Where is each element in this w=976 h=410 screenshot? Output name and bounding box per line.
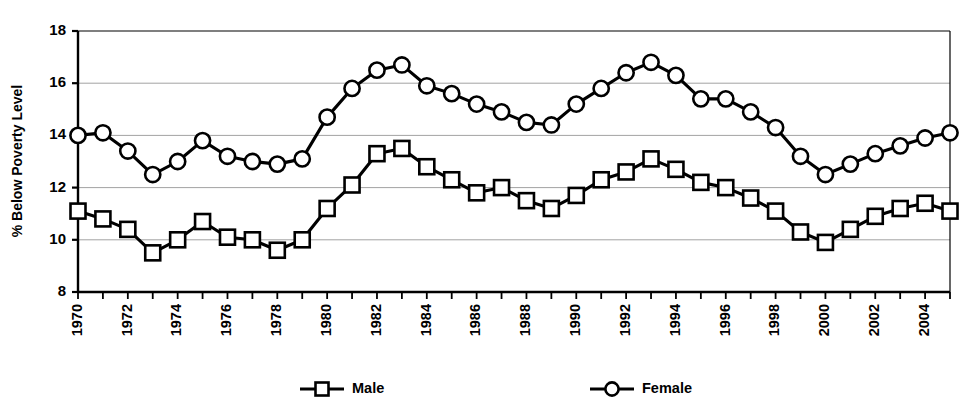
- datapoint-female-1997: [743, 104, 758, 119]
- datapoint-male-1971: [95, 211, 110, 226]
- datapoint-male-1996: [718, 180, 733, 195]
- datapoint-male-2000: [818, 235, 833, 250]
- x-tick-label-2002: 2002: [866, 304, 882, 336]
- datapoint-male-1985: [444, 172, 459, 187]
- x-tick-label-1996: 1996: [717, 304, 733, 336]
- x-tick-label-1974: 1974: [168, 304, 184, 336]
- x-tick-label-1982: 1982: [368, 304, 384, 336]
- y-tick-label-12: 12: [49, 178, 66, 195]
- datapoint-female-1992: [619, 65, 634, 80]
- datapoint-female-1996: [718, 91, 733, 106]
- datapoint-male-1988: [519, 193, 534, 208]
- datapoint-female-2003: [893, 138, 908, 153]
- x-tick-label-1970: 1970: [69, 304, 85, 336]
- datapoint-female-1973: [145, 167, 160, 182]
- datapoint-male-2005: [943, 204, 958, 219]
- chart-canvas: 81012141618 1970197219741976197819801982…: [0, 0, 976, 410]
- datapoint-female-1982: [369, 63, 384, 78]
- y-tick-label-16: 16: [49, 73, 66, 90]
- datapoint-male-1978: [270, 243, 285, 258]
- datapoint-male-1970: [71, 204, 86, 219]
- y-tick-label-18: 18: [49, 21, 66, 38]
- datapoint-female-1977: [245, 154, 260, 169]
- datapoint-female-2004: [917, 130, 932, 145]
- datapoint-female-1970: [70, 128, 85, 143]
- datapoint-female-1983: [394, 57, 409, 72]
- x-tick-label-1988: 1988: [517, 304, 533, 336]
- datapoint-female-1971: [95, 125, 110, 140]
- datapoint-male-2001: [843, 222, 858, 237]
- datapoint-female-1995: [693, 91, 708, 106]
- x-tick-label-1976: 1976: [218, 304, 234, 336]
- datapoint-male-1995: [693, 175, 708, 190]
- datapoint-male-1982: [369, 146, 384, 161]
- datapoint-male-1992: [619, 164, 634, 179]
- datapoint-male-1981: [345, 177, 360, 192]
- x-tick-label-1986: 1986: [467, 304, 483, 336]
- datapoint-male-1977: [245, 232, 260, 247]
- x-tick-label-1998: 1998: [766, 304, 782, 336]
- datapoint-female-1987: [494, 104, 509, 119]
- plot-frame: [78, 31, 950, 292]
- datapoint-female-1989: [544, 117, 559, 132]
- datapoint-male-1972: [120, 222, 135, 237]
- chart-legend: MaleFemale: [300, 380, 692, 396]
- x-tick-label-1978: 1978: [268, 304, 284, 336]
- datapoint-male-2004: [918, 196, 933, 211]
- series-male: [71, 141, 958, 260]
- series-female: [70, 55, 957, 182]
- datapoint-male-1993: [644, 151, 659, 166]
- datapoint-male-1994: [668, 162, 683, 177]
- x-tick-label-1972: 1972: [119, 304, 135, 336]
- legend-marker-female: [605, 382, 618, 395]
- datapoint-male-1980: [320, 201, 335, 216]
- datapoint-female-1978: [270, 157, 285, 172]
- datapoint-female-2005: [942, 125, 957, 140]
- x-axis-tick-labels: 1970197219741976197819801982198419861988…: [69, 304, 932, 336]
- datapoint-male-1984: [419, 159, 434, 174]
- poverty-level-line-chart: 81012141618 1970197219741976197819801982…: [0, 0, 976, 410]
- x-tick-label-1980: 1980: [318, 304, 334, 336]
- datapoint-female-1979: [295, 151, 310, 166]
- datapoint-female-2001: [843, 157, 858, 172]
- datapoint-female-1980: [320, 110, 335, 125]
- datapoint-female-1984: [419, 78, 434, 93]
- x-tick-label-1994: 1994: [667, 304, 683, 336]
- datapoint-female-1998: [768, 120, 783, 135]
- datapoint-female-2000: [818, 167, 833, 182]
- y-axis-tick-labels: 81012141618: [49, 21, 66, 299]
- datapoint-female-1991: [594, 81, 609, 96]
- legend-marker-male: [316, 383, 329, 396]
- legend-label-male: Male: [352, 380, 384, 396]
- x-tick-label-1992: 1992: [617, 304, 633, 336]
- y-axis-title: % Below Poverty Level: [9, 85, 25, 238]
- datapoint-female-1994: [668, 68, 683, 83]
- datapoint-male-1986: [469, 185, 484, 200]
- datapoint-male-1979: [295, 232, 310, 247]
- x-tick-label-1984: 1984: [418, 304, 434, 336]
- y-tick-label-14: 14: [49, 125, 66, 142]
- datapoint-male-1973: [145, 245, 160, 260]
- x-tick-label-1990: 1990: [567, 304, 583, 336]
- datapoint-male-2003: [893, 201, 908, 216]
- y-tick-label-8: 8: [58, 282, 66, 299]
- datapoint-male-1991: [594, 172, 609, 187]
- datapoint-male-1997: [743, 191, 758, 206]
- datapoint-male-1999: [793, 224, 808, 239]
- datapoint-female-1988: [519, 115, 534, 130]
- datapoint-male-1976: [220, 230, 235, 245]
- datapoint-female-1976: [220, 149, 235, 164]
- datapoint-female-1986: [469, 96, 484, 111]
- y-tick-label-10: 10: [49, 230, 66, 247]
- datapoint-female-1975: [195, 133, 210, 148]
- datapoint-male-1974: [170, 232, 185, 247]
- x-tick-label-2000: 2000: [816, 304, 832, 336]
- datapoint-male-1989: [544, 201, 559, 216]
- series-line-female: [78, 62, 950, 174]
- datapoint-female-1999: [793, 149, 808, 164]
- datapoint-female-1993: [643, 55, 658, 70]
- datapoint-female-2002: [868, 146, 883, 161]
- datapoint-female-1974: [170, 154, 185, 169]
- datapoint-female-1985: [444, 86, 459, 101]
- datapoint-male-2002: [868, 209, 883, 224]
